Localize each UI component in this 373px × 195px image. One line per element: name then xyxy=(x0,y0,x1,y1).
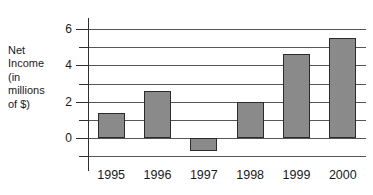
bar-1998 xyxy=(237,102,264,138)
bar-1997 xyxy=(190,138,217,151)
y-tick--1 xyxy=(79,156,88,157)
gridline-1 xyxy=(88,120,366,121)
x-label-2000: 2000 xyxy=(320,168,366,182)
x-label-1999: 1999 xyxy=(273,168,319,182)
x-label-1996: 1996 xyxy=(134,168,180,182)
y-tick-5 xyxy=(79,47,88,48)
y-tick-4 xyxy=(76,65,88,66)
y-tick-3 xyxy=(79,84,88,85)
y-tick-label-6: 6 xyxy=(56,23,72,35)
y-tick-0 xyxy=(76,138,88,139)
gridline-2 xyxy=(88,102,366,103)
bar-chart: Net Income (in millions of $) 0246 19951… xyxy=(0,0,373,195)
gridline-6 xyxy=(88,29,366,30)
x-label-1998: 1998 xyxy=(227,168,273,182)
gridline-5 xyxy=(88,47,366,48)
y-tick-label-4: 4 xyxy=(56,59,72,71)
plot-area xyxy=(88,29,366,156)
y-tick-label-2: 2 xyxy=(56,96,72,108)
gridline-4 xyxy=(88,65,366,66)
gridline-3 xyxy=(88,84,366,85)
bar-1999 xyxy=(283,54,310,138)
y-tick-1 xyxy=(79,120,88,121)
x-axis-category-labels: 199519961997199819992000 xyxy=(88,168,366,188)
gridline--1 xyxy=(88,156,366,157)
x-label-1997: 1997 xyxy=(181,168,227,182)
bar-1995 xyxy=(98,113,125,138)
bar-2000 xyxy=(329,38,356,138)
y-tick-6 xyxy=(76,29,88,30)
y-tick-2 xyxy=(76,102,88,103)
gridline-0 xyxy=(88,138,366,139)
bar-1996 xyxy=(144,91,171,138)
y-tick-label-0: 0 xyxy=(56,132,72,144)
x-label-1995: 1995 xyxy=(88,168,134,182)
y-axis-line xyxy=(88,18,89,171)
